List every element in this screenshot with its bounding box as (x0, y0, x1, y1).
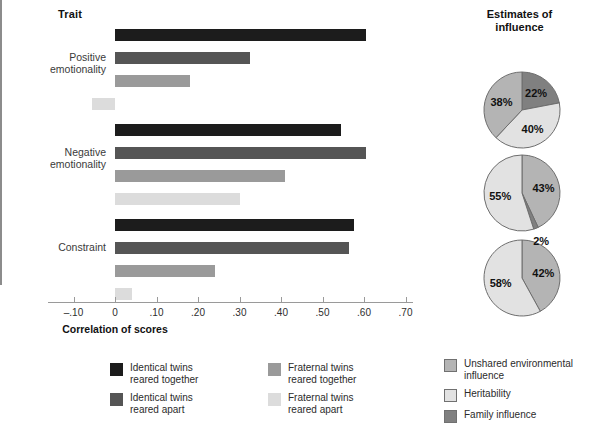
legend-item: Fraternal twins reared together (268, 362, 356, 385)
pie-legend-label: Heritability (464, 388, 511, 400)
bar-chart-legend: Identical twins reared togetherIdentical… (110, 362, 420, 422)
trait-label: Constraint (14, 242, 106, 254)
pie-slice-label: 42% (532, 267, 554, 279)
legend-label: Fraternal twins reared together (288, 362, 356, 385)
pie-legend-label: Family influence (464, 409, 536, 421)
bar (115, 219, 354, 231)
x-axis-tick (406, 297, 407, 303)
x-axis-tick-label: .60 (357, 307, 371, 318)
trait-label: Negativeemotionality (14, 147, 106, 170)
pie-slice-label: 38% (490, 96, 512, 108)
x-axis-tick (240, 297, 241, 303)
bar (115, 265, 215, 277)
x-axis-tick-label: .20 (191, 307, 205, 318)
bar (115, 170, 285, 182)
x-axis-tick-label: .50 (316, 307, 330, 318)
pie-slice-label: 58% (490, 277, 512, 289)
x-axis-tick (364, 297, 365, 303)
pie-panel-title: Estimates of influence (430, 8, 609, 34)
legend-item: Fraternal twins reared apart (268, 392, 354, 415)
trait-column-header: Trait (58, 8, 82, 20)
legend-item: Identical twins reared apart (110, 392, 193, 415)
bar (115, 29, 366, 41)
bar (115, 147, 366, 159)
pie-legend-item: Family influence (444, 409, 609, 423)
pie-chart-panel: Estimates of influence 22%40%38%43%2%55%… (430, 0, 609, 441)
pie-chart (482, 70, 562, 150)
pie-legend-swatch (444, 389, 457, 402)
bar (115, 52, 250, 64)
bar (115, 288, 132, 300)
bar (115, 124, 341, 136)
pie-legend-swatch (444, 410, 457, 423)
legend-swatch (268, 363, 281, 376)
x-axis-tick-label: .40 (274, 307, 288, 318)
x-axis-title: Correlation of scores (0, 323, 245, 335)
pie-slice-label: 55% (489, 190, 511, 202)
x-axis-tick-label: 0 (112, 307, 118, 318)
legend-label: Fraternal twins reared apart (288, 392, 354, 415)
bar (115, 193, 240, 205)
bar (92, 98, 115, 110)
zero-reference-line (0, 0, 2, 285)
x-axis-tick (281, 297, 282, 303)
pie-slice-label: 2% (533, 235, 549, 247)
x-axis-tick (74, 297, 75, 303)
pie-chart-legend: Unshared environmental influenceHeritabi… (444, 358, 609, 430)
x-axis-line (48, 302, 413, 303)
x-axis-tick (198, 297, 199, 303)
twin-study-figure: Trait PositiveemotionalityNegativeemotio… (0, 0, 609, 441)
legend-label: Identical twins reared together (130, 362, 198, 385)
pie-legend-item: Heritability (444, 388, 609, 402)
trait-label: Positiveemotionality (14, 52, 106, 75)
legend-swatch (268, 393, 281, 406)
x-axis-tick (157, 297, 158, 303)
pie-slice-label: 40% (522, 123, 544, 135)
pie-slice-label: 22% (525, 87, 547, 99)
x-axis-tick-label: .70 (399, 307, 413, 318)
legend-item: Identical twins reared together (110, 362, 198, 385)
bar-chart-panel: Trait PositiveemotionalityNegativeemotio… (0, 0, 430, 345)
legend-swatch (110, 363, 123, 376)
pie-legend-swatch (444, 359, 457, 372)
bar (115, 75, 190, 87)
x-axis-tick (115, 297, 116, 303)
x-axis-tick-label: .30 (233, 307, 247, 318)
legend-label: Identical twins reared apart (130, 392, 193, 415)
legend-swatch (110, 393, 123, 406)
x-axis-tick (323, 297, 324, 303)
pie-legend-item: Unshared environmental influence (444, 358, 609, 381)
bar (115, 242, 349, 254)
x-axis-tick-label: .10 (150, 307, 164, 318)
pie-legend-label: Unshared environmental influence (464, 358, 573, 381)
pie-slice-label: 43% (532, 182, 554, 194)
x-axis-tick-label: –.10 (64, 307, 83, 318)
